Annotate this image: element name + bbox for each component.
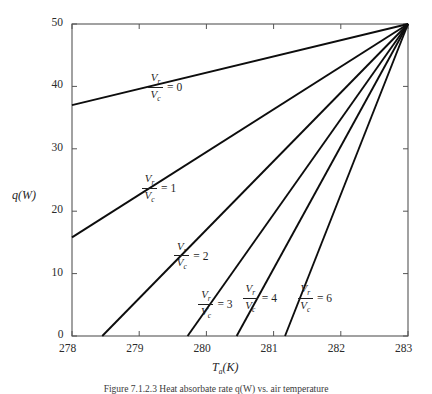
y-tick-label: 20 [51,203,63,215]
curve-label-3: VrVc= 3 [198,289,232,319]
ratio-value: = 1 [161,182,176,194]
ratio-denominator: Vc [299,299,311,314]
ratio-value: = 6 [317,292,332,304]
ratio-fraction: VrVc [198,289,213,319]
x-tick-label: 283 [395,342,412,354]
curve-label-6: VrVc= 6 [298,283,332,313]
ratio-numerator: Vr [200,289,212,304]
y-tick-label: 10 [51,266,63,278]
x-tick-label: 280 [193,342,210,354]
ratio-fraction: VrVc [148,72,163,102]
y-tick-label: 30 [51,141,63,153]
y-tick-label: 0 [58,328,64,340]
ratio-numerator: Vr [300,283,312,298]
ratio-denominator: Vc [200,305,212,320]
ratio-fraction: VrVc [142,173,157,203]
y-tick-label: 50 [51,16,63,28]
curve-label-2: VrVc= 2 [174,241,208,271]
x-tick-label: 282 [328,342,345,354]
ratio-value: = 3 [217,298,232,310]
ratio-fraction: VrVc [298,283,313,313]
curve-label-1: VrVc= 1 [142,173,176,203]
ratio-fraction: VrVc [243,283,258,313]
ratio-value: = 2 [193,250,208,262]
plot-frame [72,24,408,336]
ratio-numerator: Vr [150,72,162,87]
y-axis-label: q(W) [12,188,36,203]
ratio-numerator: Vr [176,241,188,256]
curve-label-0: VrVc= 0 [148,72,182,102]
figure-caption: Figure 7.1.2.3 Heat absorbate rate q(W) … [0,384,432,394]
x-tick-label: 279 [126,342,143,354]
ratio-value: = 4 [262,292,277,304]
curve-label-4: VrVc= 4 [243,283,277,313]
ratio-value: = 0 [167,81,182,93]
x-tick-label: 281 [261,342,278,354]
x-tick-label: 278 [59,342,76,354]
ratio-denominator: Vc [244,299,256,314]
ratio-denominator: Vc [150,88,162,103]
y-tick-label: 40 [51,78,63,90]
ratio-numerator: Vr [244,283,256,298]
ratio-denominator: Vc [143,189,155,204]
ratio-numerator: Vr [144,173,156,188]
ratio-denominator: Vc [176,256,188,271]
x-axis-label: Ta(K) [212,360,238,376]
ratio-fraction: VrVc [174,241,189,271]
